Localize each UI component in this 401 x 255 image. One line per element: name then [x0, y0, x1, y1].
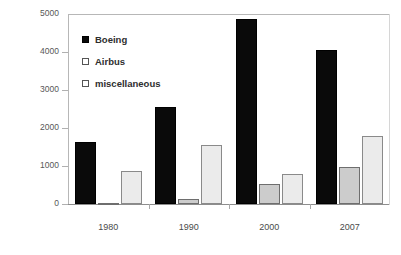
open-square-icon — [82, 58, 89, 65]
y-axis-tick-label: 3000 — [3, 85, 59, 94]
x-axis-tick-label: 2007 — [315, 222, 385, 232]
y-axis-tick-label: 5000 — [3, 9, 59, 18]
legend: Boeing Airbus miscellaneous — [82, 28, 160, 94]
bar-airbus-2007 — [339, 167, 360, 204]
x-axis-tick — [229, 204, 230, 209]
bar-miscellaneous-2000 — [282, 174, 303, 204]
y-axis-labels: 010002000300040005000 — [0, 0, 59, 255]
open-square-icon — [82, 80, 89, 87]
y-axis-tick-label: 0 — [3, 199, 59, 208]
plot-right-border — [389, 14, 390, 205]
x-axis-tick — [149, 204, 150, 209]
bar-airbus-2000 — [259, 184, 280, 204]
bar-miscellaneous-1990 — [201, 145, 222, 204]
legend-item-boeing: Boeing — [82, 28, 160, 50]
bar-boeing-1990 — [155, 107, 176, 204]
x-axis-tick-label: 1990 — [154, 222, 224, 232]
bar-boeing-2000 — [236, 19, 257, 204]
x-axis-tick-label: 2000 — [234, 222, 304, 232]
legend-label-airbus: Airbus — [95, 56, 125, 67]
bar-miscellaneous-2007 — [362, 136, 383, 204]
filled-square-icon — [82, 36, 89, 43]
x-axis-tick — [310, 204, 311, 209]
y-axis-tick-label: 4000 — [3, 47, 59, 56]
legend-item-miscellaneous: miscellaneous — [82, 72, 160, 94]
y-axis-tick-label: 1000 — [3, 161, 59, 170]
bar-airbus-1990 — [178, 199, 199, 204]
bar-airbus-1980 — [98, 203, 119, 205]
y-axis-tick-label: 2000 — [3, 123, 59, 132]
bar-miscellaneous-1980 — [121, 171, 142, 204]
x-axis-tick-label: 1980 — [73, 222, 143, 232]
bar-boeing-1980 — [75, 142, 96, 204]
legend-label-boeing: Boeing — [95, 34, 127, 45]
bar-boeing-2007 — [316, 50, 337, 204]
legend-label-miscellaneous: miscellaneous — [95, 78, 160, 89]
legend-item-airbus: Airbus — [82, 50, 160, 72]
bar-chart: US jet aircraft 010002000300040005000 19… — [0, 0, 401, 255]
